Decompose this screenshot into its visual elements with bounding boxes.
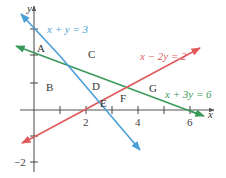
- region-label-G: G: [149, 82, 157, 94]
- x-tick-label-2: 2: [83, 116, 89, 128]
- equation-blue-label: x + y = 3: [46, 23, 89, 35]
- equation-green-label: x + 3y = 6: [164, 88, 212, 100]
- region-label-E: E: [100, 97, 107, 109]
- x-axis-label: x: [207, 108, 213, 120]
- region-label-B: B: [46, 81, 53, 93]
- x-tick-label-6: 6: [187, 116, 193, 128]
- x-tick-label-4: 4: [135, 116, 141, 128]
- region-label-C: C: [88, 48, 95, 60]
- y-tick-label-neg2: −2: [14, 156, 26, 168]
- y-axis-label: y: [26, 2, 32, 14]
- line-red-arrow-left: [22, 137, 34, 143]
- region-label-F: F: [120, 92, 126, 104]
- equation-red-label: x − 2y = 2: [139, 50, 187, 62]
- region-label-A: A: [37, 42, 45, 54]
- region-label-D: D: [92, 80, 100, 92]
- coordinate-plane: 2 4 6 −2 x y x + y = 3 x − 2y = 2 x + 3y…: [0, 0, 226, 178]
